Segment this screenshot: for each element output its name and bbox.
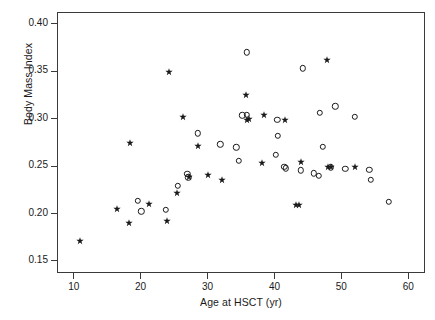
data-point-circle-marker	[233, 144, 239, 150]
data-point-star-marker	[184, 172, 193, 181]
x-axis-tick-mark	[274, 273, 275, 279]
data-point-circle-marker	[135, 198, 141, 204]
data-point-circle-marker	[275, 133, 281, 139]
y-axis-tick-label: 0.20	[29, 207, 48, 218]
data-point-star-marker	[295, 201, 304, 210]
data-point-star-marker	[323, 56, 332, 65]
data-point-circle-marker	[327, 164, 333, 170]
data-point-star-marker	[258, 159, 267, 168]
scatter-plot-figure: Body Mass Index Age at HSCT (yr) 0.150.2…	[0, 0, 435, 320]
data-point-circle-marker	[281, 163, 287, 169]
x-axis-label: Age at HSCT (yr)	[57, 296, 425, 308]
data-point-star-marker	[144, 199, 153, 208]
data-point-star-marker	[327, 163, 336, 172]
data-point-circle-marker	[217, 141, 223, 147]
data-point-circle-marker	[332, 103, 338, 109]
x-axis-tick-mark	[73, 273, 74, 279]
data-point-circle-marker	[244, 49, 250, 55]
data-point-circle-marker	[315, 173, 321, 179]
data-point-star-marker	[297, 157, 306, 166]
data-point-circle-marker	[239, 112, 245, 118]
data-point-circle-marker	[317, 110, 323, 116]
x-axis-tick-label: 30	[194, 281, 222, 292]
data-point-star-marker	[260, 110, 269, 119]
data-point-circle-marker	[194, 130, 200, 136]
data-point-circle-marker	[236, 158, 242, 164]
data-point-circle-marker	[299, 65, 305, 71]
x-axis-tick-mark	[341, 273, 342, 279]
data-point-circle-marker	[352, 114, 358, 120]
data-point-star-marker	[218, 176, 227, 185]
data-point-star-marker	[323, 163, 332, 172]
data-point-circle-marker	[244, 112, 250, 118]
plot-data-area	[57, 12, 425, 273]
data-point-circle-marker	[274, 117, 280, 123]
x-axis-tick-mark	[207, 273, 208, 279]
data-point-star-marker	[75, 236, 84, 245]
data-point-star-marker	[241, 91, 250, 100]
data-point-star-marker	[281, 116, 290, 125]
data-point-circle-marker	[386, 199, 392, 205]
data-point-star-marker	[162, 216, 171, 225]
data-point-circle-marker	[368, 176, 374, 182]
data-point-circle-marker	[185, 174, 191, 180]
x-axis-tick-label: 40	[260, 281, 288, 292]
data-point-circle-marker	[184, 171, 190, 177]
data-point-star-marker	[351, 163, 360, 172]
data-point-star-marker	[173, 189, 182, 198]
y-axis-tick-label: 0.35	[29, 64, 48, 75]
y-axis-tick-label: 0.40	[29, 17, 48, 28]
data-point-circle-marker	[273, 152, 279, 158]
data-point-star-marker	[178, 112, 187, 121]
x-axis-tick-label: 60	[394, 281, 422, 292]
x-axis-tick-mark	[408, 273, 409, 279]
data-point-star-marker	[291, 200, 300, 209]
data-point-circle-marker	[163, 207, 169, 213]
data-point-circle-marker	[283, 165, 289, 171]
x-axis-tick-label: 20	[127, 281, 155, 292]
y-axis-label: Body Mass Index	[22, 4, 34, 164]
data-point-circle-marker	[138, 208, 144, 214]
data-point-circle-marker	[342, 165, 348, 171]
data-point-star-marker	[204, 170, 213, 179]
data-point-star-marker	[193, 141, 202, 150]
y-axis-tick-label: 0.30	[29, 112, 48, 123]
data-point-circle-marker	[311, 170, 317, 176]
x-axis-tick-label: 50	[327, 281, 355, 292]
y-axis-tick-label: 0.15	[29, 254, 48, 265]
data-point-star-marker	[125, 218, 134, 227]
y-axis-tick-label: 0.25	[29, 159, 48, 170]
x-axis-tick-label: 10	[60, 281, 88, 292]
data-point-circle-marker	[319, 144, 325, 150]
data-point-star-marker	[112, 205, 121, 214]
data-point-star-marker	[125, 138, 134, 147]
data-point-circle-marker	[297, 167, 303, 173]
data-point-circle-marker	[175, 182, 181, 188]
data-point-star-marker	[164, 68, 173, 77]
data-point-star-marker	[243, 116, 252, 125]
data-point-circle-marker	[366, 166, 372, 172]
x-axis-tick-mark	[140, 273, 141, 279]
data-point-star-marker	[245, 115, 254, 124]
